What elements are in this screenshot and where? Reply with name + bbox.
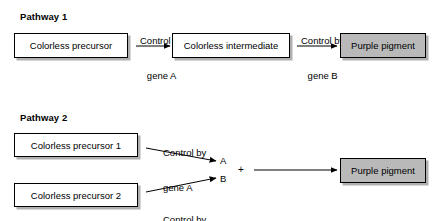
plus-operator: + bbox=[238, 164, 244, 175]
metabolite-b: B bbox=[220, 173, 226, 184]
box-colorless-precursor-1: Colorless precursor 1 bbox=[14, 133, 138, 157]
label-line-2: gene B bbox=[301, 70, 344, 82]
box-colorless-intermediate: Colorless intermediate bbox=[172, 33, 290, 58]
box-purple-pigment-p2: Purple pigment bbox=[340, 158, 426, 183]
box-purple-pigment-p1: Purple pigment bbox=[340, 33, 426, 58]
pathway-2-title: Pathway 2 bbox=[20, 112, 67, 123]
pathway-1-title: Pathway 1 bbox=[20, 11, 67, 22]
box-label: Colorless precursor 1 bbox=[31, 140, 121, 151]
label-line-1: Control by bbox=[301, 35, 344, 47]
metabolite-a: A bbox=[220, 155, 226, 166]
label-p1-control-gene-a: Control by gene A bbox=[140, 12, 183, 104]
box-colorless-precursor-2: Colorless precursor 2 bbox=[14, 183, 138, 207]
box-label: Colorless precursor 2 bbox=[31, 190, 121, 201]
diagram-canvas: Pathway 1 Colorless precursor Control by… bbox=[0, 0, 439, 221]
label-line-1: Control by bbox=[163, 147, 206, 159]
label-p1-control-gene-b: Control by gene B bbox=[301, 12, 344, 104]
box-colorless-precursor: Colorless precursor bbox=[14, 33, 128, 58]
box-label: Colorless intermediate bbox=[184, 40, 279, 51]
label-line-1: Control by bbox=[163, 214, 206, 221]
box-label: Purple pigment bbox=[351, 40, 415, 51]
box-label: Colorless precursor bbox=[30, 40, 112, 51]
box-label: Purple pigment bbox=[351, 165, 415, 176]
label-line-2: gene A bbox=[140, 70, 183, 82]
label-p2-control-gene-b: Control by gene B bbox=[163, 191, 206, 221]
